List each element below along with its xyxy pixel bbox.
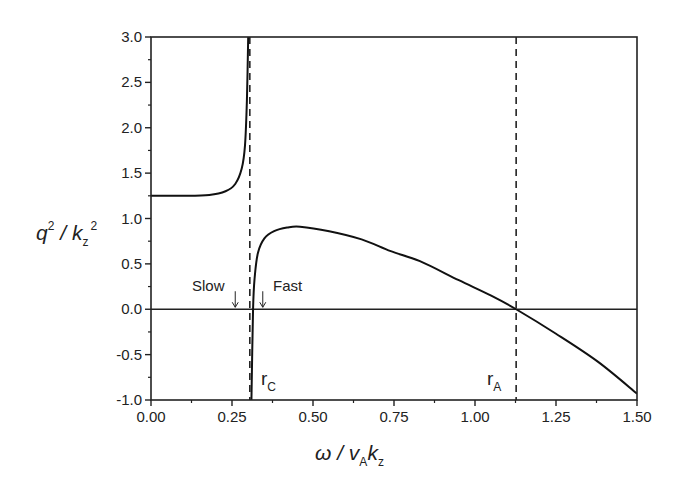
fast-arrow-icon	[260, 291, 266, 307]
y-tick-label: -1.0	[116, 391, 142, 408]
slow-arrow-icon	[232, 291, 238, 307]
y-tick-label: 3.0	[121, 28, 142, 45]
y-tick-label: 0.0	[121, 300, 142, 317]
x-tick-label: 1.50	[622, 408, 651, 425]
ra-label: rA	[487, 368, 501, 394]
x-tick-label: 0.75	[379, 408, 408, 425]
y-tick-label: 1.5	[121, 164, 142, 181]
slow-label: Slow	[192, 277, 225, 294]
dispersion-chart: -1.0-0.50.00.51.01.52.02.53.00.000.250.5…	[0, 0, 690, 495]
x-tick-label: 1.25	[541, 408, 570, 425]
x-tick-label: 0.00	[136, 408, 165, 425]
x-tick-label: 1.00	[460, 408, 489, 425]
x-tick-label: 0.25	[217, 408, 246, 425]
axes: -1.0-0.50.00.51.01.52.02.53.00.000.250.5…	[116, 28, 651, 425]
series-fast-branch	[251, 226, 637, 400]
y-axis-title: q2 / kz2	[36, 219, 97, 249]
y-tick-label: -0.5	[116, 346, 142, 363]
x-tick-label: 0.50	[298, 408, 327, 425]
x-axis-title: ω / vAkz	[315, 441, 384, 469]
series-slow-branch	[151, 37, 248, 196]
y-tick-label: 2.0	[121, 119, 142, 136]
y-tick-label: 0.5	[121, 255, 142, 272]
plot-area	[151, 37, 637, 400]
y-tick-label: 2.5	[121, 73, 142, 90]
plot-frame	[151, 37, 637, 400]
fast-label: Fast	[273, 277, 303, 294]
rc-label: rC	[261, 368, 276, 394]
y-tick-label: 1.0	[121, 210, 142, 227]
